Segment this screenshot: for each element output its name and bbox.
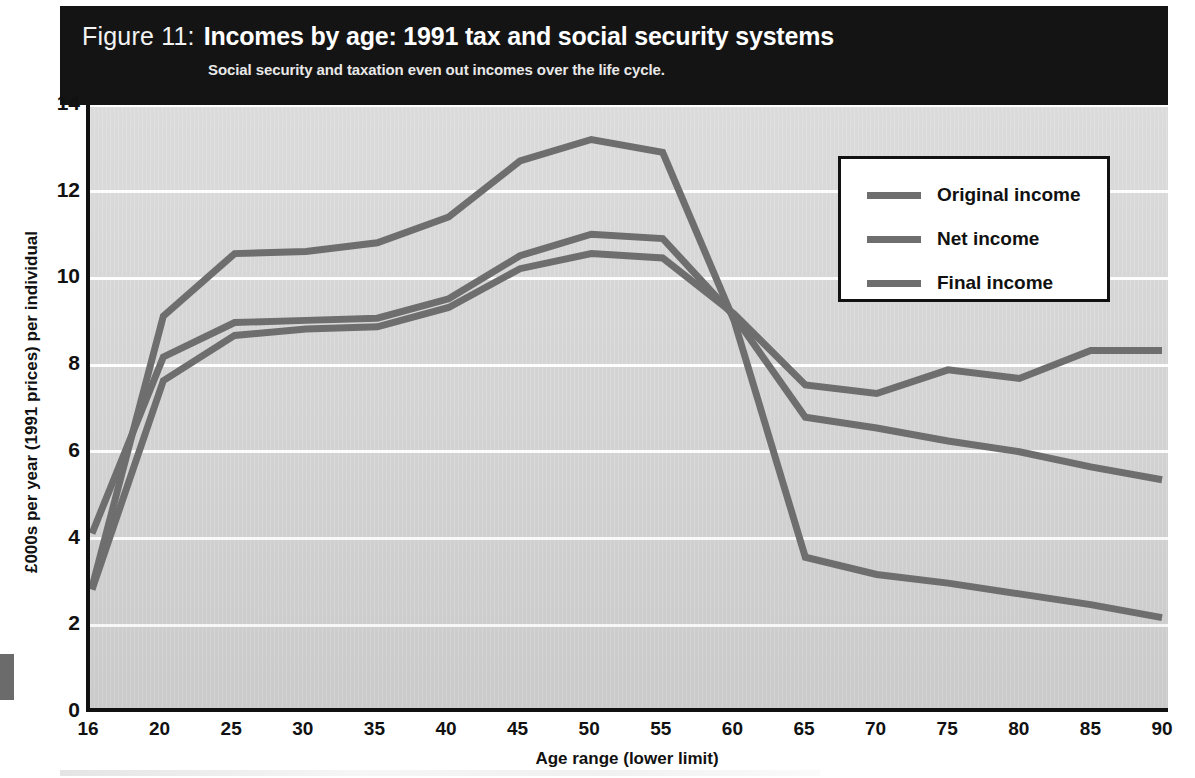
x-tick-label-80: 80 bbox=[1008, 718, 1029, 740]
x-tick-label-16: 16 bbox=[77, 718, 98, 740]
y-tick-label-0: 0 bbox=[40, 698, 80, 722]
x-tick-label-45: 45 bbox=[507, 718, 528, 740]
page-title: Incomes by age: 1991 tax and social secu… bbox=[204, 22, 834, 51]
page-bottom-edge bbox=[60, 770, 820, 776]
x-tick-label-70: 70 bbox=[865, 718, 886, 740]
legend-item-final-income[interactable]: Final income bbox=[841, 261, 1107, 305]
legend-label-net-income: Net income bbox=[937, 228, 1039, 250]
x-tick-label-60: 60 bbox=[722, 718, 743, 740]
x-tick-label-25: 25 bbox=[221, 718, 242, 740]
x-tick-label-30: 30 bbox=[292, 718, 313, 740]
x-tick-label-40: 40 bbox=[435, 718, 456, 740]
figure-header-band: Figure 11: Incomes by age: 1991 tax and … bbox=[60, 6, 1168, 105]
x-tick-label-35: 35 bbox=[364, 718, 385, 740]
y-tick-label-4: 4 bbox=[40, 525, 80, 549]
y-tick-label-14: 14 bbox=[40, 91, 80, 115]
legend-swatch-original-income bbox=[867, 192, 921, 199]
y-tick-label-12: 12 bbox=[40, 178, 80, 202]
y-tick-label-10: 10 bbox=[40, 264, 80, 288]
figure-title-row: Figure 11: Incomes by age: 1991 tax and … bbox=[82, 22, 834, 51]
x-tick-label-85: 85 bbox=[1080, 718, 1101, 740]
y-tick-label-2: 2 bbox=[40, 611, 80, 635]
y-tick-label-8: 8 bbox=[40, 351, 80, 375]
legend-swatch-net-income bbox=[867, 236, 921, 243]
x-tick-label-75: 75 bbox=[937, 718, 958, 740]
legend-label-original-income: Original income bbox=[937, 184, 1081, 206]
y-tick-label-6: 6 bbox=[40, 438, 80, 462]
x-tick-label-65: 65 bbox=[793, 718, 814, 740]
figure-number-label: Figure 11: bbox=[82, 22, 195, 51]
legend-swatch-final-income bbox=[867, 280, 921, 287]
x-tick-label-50: 50 bbox=[579, 718, 600, 740]
y-axis-title: £000s per year (1991 prices) per individ… bbox=[22, 142, 42, 662]
x-tick-label-90: 90 bbox=[1151, 718, 1172, 740]
figure-subtitle: Social security and taxation even out in… bbox=[208, 61, 665, 78]
page-edge-marker bbox=[0, 654, 14, 700]
legend-item-net-income[interactable]: Net income bbox=[841, 217, 1107, 261]
chart-legend: Original income Net income Final income bbox=[838, 156, 1110, 302]
legend-label-final-income: Final income bbox=[937, 272, 1053, 294]
legend-item-original-income[interactable]: Original income bbox=[841, 173, 1107, 217]
x-tick-label-20: 20 bbox=[149, 718, 170, 740]
x-tick-label-55: 55 bbox=[650, 718, 671, 740]
x-axis-title: Age range (lower limit) bbox=[86, 749, 1168, 769]
